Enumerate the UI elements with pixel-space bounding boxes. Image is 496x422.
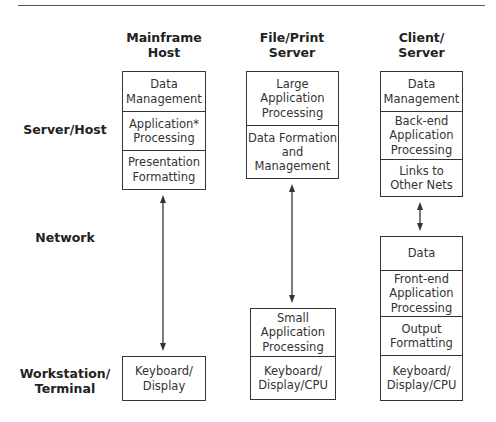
- fileprint-double-arrow-icon: [289, 184, 295, 303]
- connector-arrows: [0, 0, 496, 422]
- mainframe-double-arrow-icon: [160, 195, 166, 351]
- clientserver-double-arrow-icon: [417, 202, 423, 231]
